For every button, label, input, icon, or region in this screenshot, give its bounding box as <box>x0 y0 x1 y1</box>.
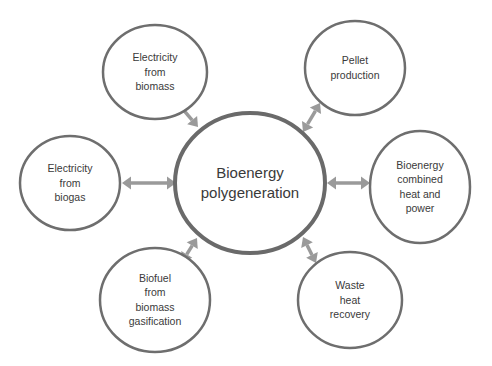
node-electricity-from-biomass-label-line: Electricity <box>133 51 179 63</box>
node-electricity-from-biogas[interactable]: Electricityfrombiogas <box>20 136 120 230</box>
node-electricity-from-biomass-label-line: biomass <box>135 80 174 92</box>
node-pellet-production[interactable]: Pelletproduction <box>305 21 405 115</box>
arrow-shaft <box>307 245 312 255</box>
node-electricity-from-biomass[interactable]: Electricityfrombiomass <box>103 25 207 119</box>
node-pellet-production-label-line: production <box>330 69 379 81</box>
diagram-canvas: BioenergypolygenerationElectricityfrombi… <box>0 0 492 366</box>
node-bioenergy-chp-label-line: heat and <box>400 188 441 200</box>
node-biofuel-from-biomass-gasification-label-line: from <box>145 286 166 298</box>
node-bioenergy-chp-label-line: Bioenergy <box>396 159 444 171</box>
node-electricity-from-biogas-label-line: biogas <box>55 191 86 203</box>
node-waste-heat-recovery-label-line: recovery <box>330 308 371 320</box>
node-waste-heat-recovery[interactable]: Wasteheatrecovery <box>298 252 402 348</box>
node-biofuel-from-biomass-gasification-label-line: biomass <box>135 301 174 313</box>
node-electricity-from-biogas-label-line: from <box>60 177 81 189</box>
hub-node-bioenergy-polygeneration[interactable]: Bioenergypolygeneration <box>175 113 325 253</box>
node-biofuel-from-biomass-gasification-label-line: Biofuel <box>139 272 171 284</box>
node-pellet-production-label-line: Pellet <box>342 54 368 66</box>
hub-node-bioenergy-polygeneration-label-line: Bioenergy <box>216 164 284 181</box>
nodes-layer: BioenergypolygenerationElectricityfrombi… <box>20 21 470 352</box>
arrow-bioenergy-chp <box>327 177 370 190</box>
hub-node-bioenergy-polygeneration-circle <box>175 113 325 253</box>
node-biofuel-from-biomass-gasification[interactable]: Biofuelfrombiomassgasification <box>100 248 210 352</box>
arrow-shaft <box>187 246 192 255</box>
node-electricity-from-biogas-label-line: Electricity <box>48 162 94 174</box>
node-bioenergy-chp[interactable]: Bioenergycombinedheat andpower <box>370 131 470 243</box>
arrow-head-end <box>361 177 370 190</box>
arrow-pellet-production <box>302 103 321 132</box>
arrow-electricity-from-biogas <box>122 177 176 190</box>
node-waste-heat-recovery-label-line: Waste <box>335 279 365 291</box>
node-waste-heat-recovery-label-line: heat <box>340 294 361 306</box>
node-bioenergy-chp-label-line: combined <box>397 173 443 185</box>
arrow-waste-heat-recovery <box>301 237 318 263</box>
node-electricity-from-biomass-label-line: from <box>145 66 166 78</box>
hub-node-bioenergy-polygeneration-label-line: polygeneration <box>201 184 299 201</box>
arrow-head-end <box>122 177 131 190</box>
node-biofuel-from-biomass-gasification-label-line: gasification <box>129 315 182 327</box>
node-bioenergy-chp-label-line: power <box>406 202 435 214</box>
arrow-head-start <box>327 177 336 190</box>
arrow-shaft <box>308 111 316 124</box>
